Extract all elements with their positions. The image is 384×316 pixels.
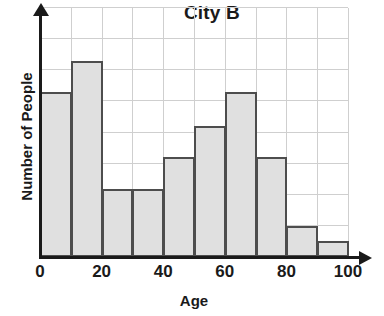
x-axis-tick-label: 80 [264,262,308,282]
histogram-bar [102,189,134,257]
x-axis-tick-label: 60 [203,262,247,282]
y-axis-arrow-icon [33,3,49,16]
y-axis-line [39,14,42,259]
histogram-bar [286,226,318,257]
histogram-bar [132,189,164,257]
histogram-bar [40,92,72,257]
x-axis-line [39,256,361,259]
x-axis-tick-label: 40 [141,262,185,282]
bar-series [40,8,348,257]
histogram-bar [194,126,226,257]
histogram-bar [256,157,288,257]
y-axis-label: Number of People [18,47,35,227]
gridline-vertical [348,8,349,257]
histogram-bar [225,92,257,257]
x-axis-tick-label: 100 [326,262,370,282]
histogram-bar [163,157,195,257]
histogram-bar [317,241,349,257]
x-axis-tick-label: 20 [80,262,124,282]
histogram-chart: City B Number of People 020406080100 Age [0,0,384,316]
x-axis-label: Age [40,292,348,309]
plot-area [40,8,348,257]
x-axis-tick-label: 0 [18,262,62,282]
histogram-bar [71,61,103,257]
